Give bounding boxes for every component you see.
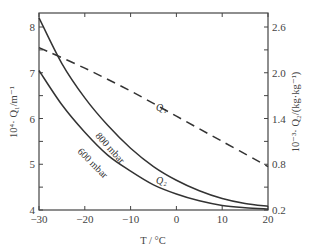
svg-text:6: 6 <box>30 113 36 125</box>
svg-text:1.4: 1.4 <box>272 113 286 125</box>
data-curves <box>39 18 268 209</box>
svg-text:10: 10 <box>217 213 229 225</box>
svg-text:−10: −10 <box>122 213 140 225</box>
plot-frame <box>39 13 268 210</box>
svg-text:−20: −20 <box>76 213 94 225</box>
y-left-axis-label: 10⁴· Q₁/m⁻¹ <box>8 86 19 138</box>
svg-text:8: 8 <box>30 21 36 33</box>
q2-label: Q₂ <box>156 175 167 186</box>
axis-ticks: −30−20−1001020456780.20.81.42.02.6 <box>30 13 287 225</box>
svg-text:2.0: 2.0 <box>272 67 286 79</box>
svg-text:2.6: 2.6 <box>272 21 286 33</box>
svg-text:0.8: 0.8 <box>272 158 286 170</box>
svg-text:4: 4 <box>30 204 36 216</box>
q1-label: Q₁ <box>156 102 167 113</box>
chart: −30−20−1001020456780.20.81.42.02.6 T / °… <box>0 0 313 250</box>
x-axis-label: T / °C <box>140 235 166 246</box>
svg-text:0: 0 <box>174 213 180 225</box>
svg-text:0.2: 0.2 <box>272 204 286 216</box>
y-right-axis-label: 10⁻³· Q₂/(kg·kg⁻¹) <box>290 71 302 152</box>
label-600-mbar: 600 mbar <box>76 146 111 181</box>
svg-text:5: 5 <box>30 158 36 170</box>
svg-text:7: 7 <box>30 67 36 79</box>
